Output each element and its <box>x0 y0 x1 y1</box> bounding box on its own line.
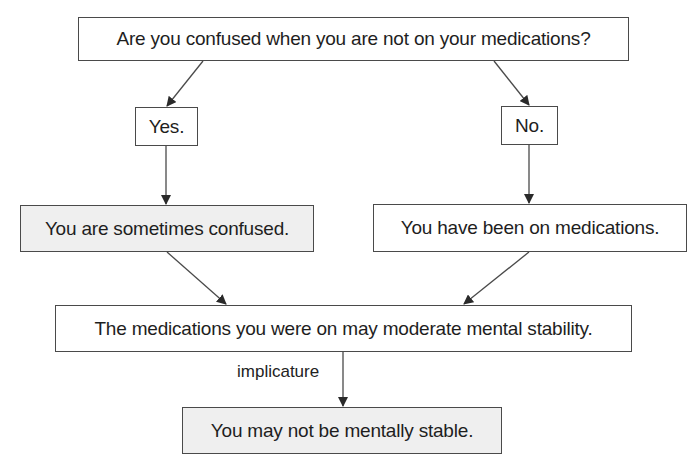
arrow-question-to-no <box>494 61 529 105</box>
node-medications-moderate: The medications you were on may moderate… <box>55 305 632 352</box>
edge-label-implicature: implicature <box>237 362 319 382</box>
node-sometimes-confused: You are sometimes confused. <box>20 205 314 252</box>
node-not-mentally-stable: You may not be mentally stable. <box>182 407 502 454</box>
node-been-on-medications-text: You have been on medications. <box>401 217 660 239</box>
node-sometimes-confused-text: You are sometimes confused. <box>45 218 289 240</box>
node-medications-moderate-text: The medications you were on may moderate… <box>94 318 592 340</box>
node-question-text: Are you confused when you are not on you… <box>117 28 591 50</box>
node-no: No. <box>501 106 558 145</box>
arrow-question-to-yes <box>167 61 203 106</box>
arrow-meds-to-moderate <box>464 252 529 304</box>
node-yes: Yes. <box>135 107 198 146</box>
node-not-mentally-stable-text: You may not be mentally stable. <box>211 420 473 442</box>
node-been-on-medications: You have been on medications. <box>373 204 687 252</box>
arrow-confused-to-moderate <box>167 252 226 304</box>
flowchart-diagram: Are you confused when you are not on you… <box>0 0 698 468</box>
node-no-text: No. <box>515 115 544 137</box>
node-question: Are you confused when you are not on you… <box>78 17 629 61</box>
node-yes-text: Yes. <box>149 116 184 138</box>
